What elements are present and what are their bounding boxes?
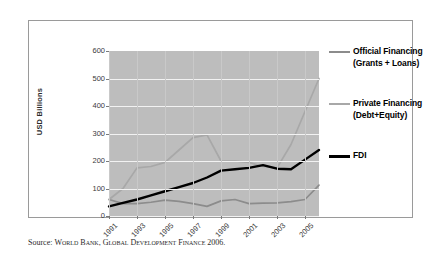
gridline-horizontal	[109, 189, 319, 190]
y-tick-label: 600	[79, 47, 105, 55]
legend-swatch	[329, 103, 350, 105]
gridline-vertical	[305, 51, 306, 216]
y-tick-label: 300	[79, 130, 105, 138]
legend-label: Official Financing (Grants + Loans)	[353, 46, 432, 69]
x-tick-mark	[165, 216, 166, 219]
source-text: World Bank, Global Development Finance 2…	[54, 238, 225, 247]
x-tick-label: 2005	[293, 221, 315, 243]
x-tick-label: 2003	[265, 221, 287, 243]
gridline-vertical	[249, 51, 250, 216]
legend-label: FDI	[353, 150, 366, 162]
gridline-horizontal	[109, 106, 319, 107]
chart-frame: USD Billions 0100200300400500600 1991199…	[28, 20, 413, 218]
series-line	[109, 79, 319, 200]
plot-area	[109, 51, 319, 216]
x-tick-mark	[137, 216, 138, 219]
legend-label: Private Financing (Debt+Equity)	[353, 98, 432, 121]
legend-item[interactable]: Official Financing (Grants + Loans)	[329, 46, 432, 69]
y-tick-label: 200	[79, 157, 105, 165]
x-tick-mark	[277, 216, 278, 219]
y-axis-ticks: 0100200300400500600	[77, 51, 105, 216]
y-axis-title: USD Billions	[35, 88, 44, 135]
legend-swatch	[329, 155, 350, 158]
x-tick-label: 2001	[237, 221, 259, 243]
gridline-vertical	[193, 51, 194, 216]
x-tick-mark	[193, 216, 194, 219]
gridline-vertical	[137, 51, 138, 216]
x-tick-mark	[305, 216, 306, 219]
gridline-vertical	[109, 51, 110, 216]
gridline-horizontal	[109, 161, 319, 162]
gridline-vertical	[277, 51, 278, 216]
figure-container: USD Billions 0100200300400500600 1991199…	[0, 0, 432, 263]
y-tick-label: 0	[79, 212, 105, 220]
y-tick-label: 400	[79, 102, 105, 110]
series-line	[109, 150, 319, 206]
legend-item[interactable]: FDI	[329, 150, 366, 162]
y-tick-label: 500	[79, 75, 105, 83]
source-note: Source: World Bank, Global Development F…	[28, 238, 225, 247]
x-tick-mark	[249, 216, 250, 219]
x-tick-mark	[221, 216, 222, 219]
x-tick-mark	[109, 216, 110, 219]
gridline-vertical	[221, 51, 222, 216]
legend-swatch	[329, 51, 350, 53]
gridline-vertical	[165, 51, 166, 216]
y-tick-label: 100	[79, 185, 105, 193]
source-prefix: Source:	[28, 238, 52, 247]
gridline-horizontal	[109, 79, 319, 80]
legend-item[interactable]: Private Financing (Debt+Equity)	[329, 98, 432, 121]
gridline-horizontal	[109, 134, 319, 135]
